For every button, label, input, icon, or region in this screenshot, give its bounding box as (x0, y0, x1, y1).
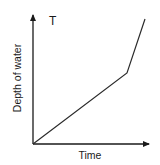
y-axis-label: Depth of water (11, 43, 23, 112)
annotation-label: T (49, 14, 57, 28)
depth-time-chart: T Depth of water Time (0, 0, 160, 165)
depth-line (33, 19, 145, 144)
x-axis-label: Time (79, 149, 102, 161)
